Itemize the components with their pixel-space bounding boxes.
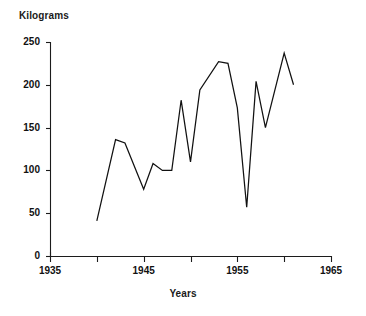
y-tick-label: 50 (8, 207, 40, 218)
x-tick-label: 1955 (217, 265, 257, 276)
axes (50, 42, 331, 257)
data-series-line (97, 53, 294, 221)
y-tick-label: 0 (8, 250, 40, 261)
x-axis-title: Years (0, 288, 366, 299)
x-tick-label: 1965 (311, 265, 351, 276)
y-tick-label: 100 (8, 164, 40, 175)
y-tick-label: 150 (8, 122, 40, 133)
line-chart: Kilograms 050100150200250 19351945195519… (0, 0, 366, 316)
y-tick-label: 200 (8, 79, 40, 90)
y-axis-ticks (46, 43, 50, 257)
x-tick-label: 1935 (30, 265, 70, 276)
x-tick-label: 1945 (124, 265, 164, 276)
y-tick-label: 250 (8, 36, 40, 47)
